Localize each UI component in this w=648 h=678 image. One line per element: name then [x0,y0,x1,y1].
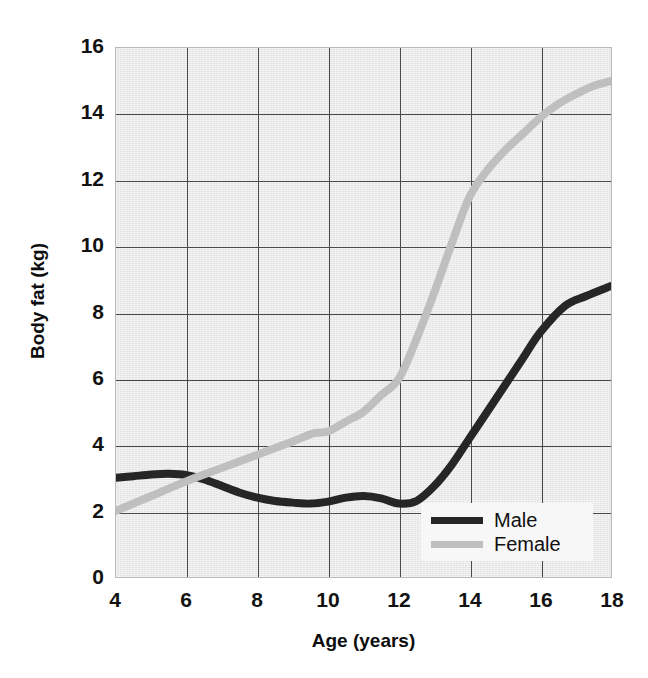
y-tick-label: 6 [4,366,104,390]
body-fat-line-chart: 0246810121416 4681012141618 Age (years) … [0,0,648,678]
y-axis-title: Body fat (kg) [27,243,49,359]
series-line-male [116,286,611,504]
x-tick-label: 6 [156,588,216,612]
y-tick-label: 8 [4,300,104,324]
x-tick-label: 10 [298,588,358,612]
plot-area [115,47,612,578]
legend-label-male: Male [494,510,537,530]
x-tick-label: 12 [369,588,429,612]
series-lines [116,48,611,577]
x-tick-label: 8 [227,588,287,612]
series-line-female [116,81,611,511]
x-axis-tick-labels: 4681012141618 [0,588,648,618]
y-tick-label: 2 [4,499,104,523]
legend-swatch-female [431,541,483,548]
x-axis-title: Age (years) [115,630,612,652]
y-tick-label: 10 [4,233,104,257]
legend-label-female: Female [494,534,561,554]
y-tick-label: 16 [4,34,104,58]
y-tick-label: 14 [4,100,104,124]
y-tick-label: 0 [4,565,104,589]
x-tick-label: 4 [85,588,145,612]
x-tick-label: 18 [582,588,642,612]
y-axis-title-wrapper: Body fat (kg) [27,36,49,567]
y-tick-label: 12 [4,167,104,191]
legend: Male Female [421,503,593,561]
x-tick-label: 14 [440,588,500,612]
legend-swatch-male [431,517,483,524]
y-tick-label: 4 [4,432,104,456]
legend-item-female: Female [431,532,585,556]
legend-item-male: Male [431,508,585,532]
y-axis-tick-labels: 0246810121416 [0,0,104,678]
x-tick-label: 16 [511,588,571,612]
